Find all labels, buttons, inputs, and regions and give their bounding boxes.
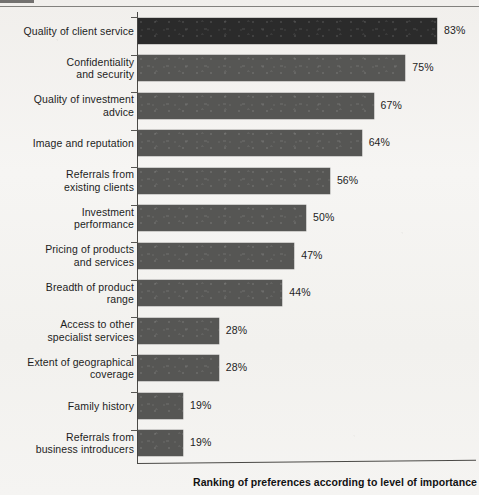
category-label: Extent of geographical coverage	[0, 356, 134, 381]
bar-value-label: 83%	[444, 24, 465, 36]
category-label: Investment performance	[0, 206, 134, 231]
bar-row: Extent of geographical coverage28%	[0, 350, 479, 388]
bar-row: Breadth of product range44%	[0, 275, 479, 313]
bar	[138, 93, 374, 119]
page-corner-mark	[0, 0, 34, 3]
bar-row: Referrals from existing clients56%	[0, 162, 479, 200]
bar-row: Confidentiality and security75%	[0, 50, 479, 88]
category-label: Image and reputation	[0, 137, 134, 150]
bar	[138, 430, 183, 456]
bar-value-label: 28%	[226, 361, 247, 373]
bar	[138, 18, 437, 44]
bar	[138, 280, 282, 306]
bar-row: Family history19%	[0, 387, 479, 425]
bar-value-label: 19%	[190, 436, 211, 448]
bar	[138, 243, 294, 269]
bar	[138, 318, 219, 344]
bar-value-label: 44%	[289, 286, 310, 298]
bar-value-label: 19%	[190, 399, 211, 411]
category-label: Confidentiality and security	[0, 56, 134, 81]
bar-row: Quality of client service83%	[0, 12, 479, 50]
category-label: Pricing of products and services	[0, 243, 134, 268]
page-top-rule	[0, 6, 479, 7]
y-axis-tick	[131, 392, 138, 393]
bar	[138, 55, 405, 81]
y-axis-tick	[131, 17, 138, 18]
category-label: Referrals from existing clients	[0, 168, 134, 193]
horizontal-bar-chart: Quality of client service83%Confidential…	[0, 10, 479, 465]
bar-value-label: 56%	[337, 174, 358, 186]
bar	[138, 130, 362, 156]
bar	[138, 355, 219, 381]
bar-value-label: 28%	[226, 324, 247, 336]
bar-row: Access to other specialist services28%	[0, 312, 479, 350]
bar-value-label: 64%	[369, 136, 390, 148]
x-axis-title: Ranking of preferences according to leve…	[193, 476, 477, 488]
category-label: Quality of investment advice	[0, 93, 134, 118]
bar-row: Quality of investment advice67%	[0, 87, 479, 125]
bar-row: Investment performance50%	[0, 200, 479, 238]
category-label: Breadth of product range	[0, 281, 134, 306]
category-label: Access to other specialist services	[0, 318, 134, 343]
bar-value-label: 75%	[412, 61, 433, 73]
bar-value-label: 50%	[313, 211, 334, 223]
bar-row: Pricing of products and services47%	[0, 237, 479, 275]
bar	[138, 393, 183, 419]
bar-row: Referrals from business introducers19%	[0, 425, 479, 463]
bar-value-label: 67%	[381, 99, 402, 111]
bar	[138, 205, 306, 231]
category-label: Quality of client service	[0, 25, 134, 38]
bar-value-label: 47%	[301, 249, 322, 261]
category-label: Referrals from business introducers	[0, 431, 134, 456]
y-axis-tick	[131, 130, 138, 131]
bar	[138, 168, 330, 194]
bar-row: Image and reputation64%	[0, 125, 479, 163]
category-label: Family history	[0, 400, 134, 413]
